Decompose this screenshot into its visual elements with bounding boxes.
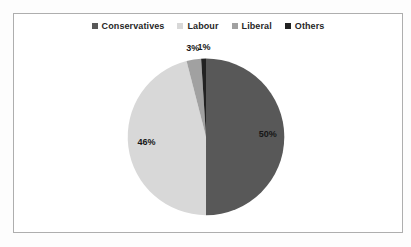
pie-svg (14, 14, 402, 232)
chart-frame: ConservativesLabourLiberalOthers 50%46%3… (13, 13, 403, 233)
pie-slice-conservatives (206, 59, 284, 216)
chart-canvas: ConservativesLabourLiberalOthers 50%46%3… (0, 0, 411, 247)
